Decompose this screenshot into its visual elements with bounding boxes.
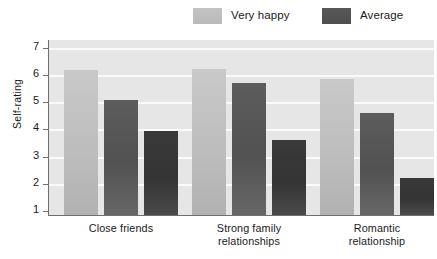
legend-item-very-happy: Very happy [193, 8, 290, 24]
y-tick-label-7: 7 [33, 41, 39, 52]
legend-item-average: Average [322, 8, 403, 24]
y-tick-label-1: 1 [33, 204, 39, 215]
legend-label-very-happy: Very happy [231, 10, 290, 22]
x-axis-line [48, 215, 434, 216]
category-line-2: relationships [185, 235, 313, 248]
bar-romantic-average [360, 113, 394, 215]
y-tick-label-4: 4 [33, 122, 39, 133]
category-label-strong-family: Strong family relationships [185, 222, 313, 247]
bar-close-friends-average [104, 100, 138, 215]
chart-container: Very happy Average Self-rating [0, 0, 437, 259]
y-tick-4: 4 [20, 129, 48, 130]
bar-romantic-third [400, 178, 434, 215]
y-tick-7: 7 [20, 48, 48, 49]
plot-area: Self-rating 7 6 [0, 38, 437, 218]
y-tick-1: 1 [20, 211, 48, 212]
bar-close-friends-very-happy [64, 70, 98, 215]
bar-strong-family-average [232, 83, 266, 215]
y-axis-ticks: 7 6 5 4 3 2 1 [20, 38, 48, 218]
y-tick-label-3: 3 [33, 150, 39, 161]
y-axis-line [48, 40, 49, 216]
y-tick-label-6: 6 [33, 68, 39, 79]
x-axis-category-labels: Close friends Strong family relationship… [49, 222, 434, 259]
legend-swatch-average [322, 8, 351, 24]
category-line-1: Close friends [57, 222, 185, 235]
legend-swatch-very-happy [193, 8, 222, 24]
category-line-1: Strong family [185, 222, 313, 235]
y-tick-5: 5 [20, 102, 48, 103]
bar-romantic-very-happy [320, 79, 354, 215]
bar-strong-family-very-happy [192, 69, 226, 215]
y-tick-6: 6 [20, 75, 48, 76]
chart-legend: Very happy Average [0, 8, 437, 30]
bar-close-friends-third [144, 131, 178, 215]
legend-label-average: Average [360, 10, 403, 22]
y-tick-3: 3 [20, 157, 48, 158]
category-label-romantic: Romantic relationship [313, 222, 437, 247]
y-tick-label-2: 2 [33, 177, 39, 188]
category-line-2: relationship [313, 235, 437, 248]
category-label-close-friends: Close friends [57, 222, 185, 235]
y-tick-2: 2 [20, 184, 48, 185]
bar-strong-family-third [272, 140, 306, 215]
bar-group-layer [49, 40, 434, 215]
category-line-1: Romantic [313, 222, 437, 235]
y-tick-label-5: 5 [33, 95, 39, 106]
